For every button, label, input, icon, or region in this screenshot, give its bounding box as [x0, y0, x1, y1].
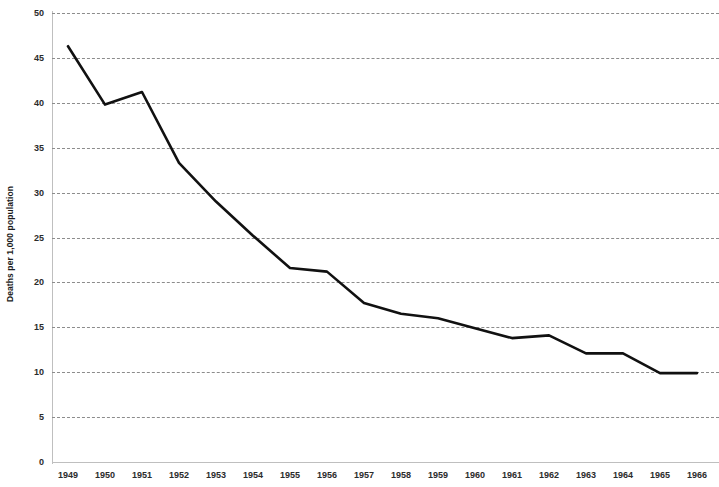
- x-tick-label: 1956: [317, 470, 337, 480]
- x-axis-tick-labels: 1949195019511952195319541955195619571958…: [0, 0, 719, 487]
- x-tick-label: 1953: [206, 470, 226, 480]
- x-tick-label: 1965: [650, 470, 670, 480]
- x-tick-label: 1964: [613, 470, 633, 480]
- x-tick-label: 1957: [354, 470, 374, 480]
- x-tick-label: 1950: [95, 470, 115, 480]
- line-chart: Deaths per 1,000 population 051015202530…: [0, 0, 719, 487]
- x-tick-label: 1959: [428, 470, 448, 480]
- x-tick-label: 1960: [465, 470, 485, 480]
- x-tick-label: 1966: [687, 470, 707, 480]
- x-tick-label: 1963: [576, 470, 596, 480]
- x-tick-label: 1958: [391, 470, 411, 480]
- x-tick-label: 1952: [169, 470, 189, 480]
- x-tick-label: 1962: [539, 470, 559, 480]
- x-tick-label: 1955: [280, 470, 300, 480]
- x-tick-label: 1951: [132, 470, 152, 480]
- x-tick-label: 1961: [502, 470, 522, 480]
- x-tick-label: 1949: [58, 470, 78, 480]
- x-tick-label: 1954: [243, 470, 263, 480]
